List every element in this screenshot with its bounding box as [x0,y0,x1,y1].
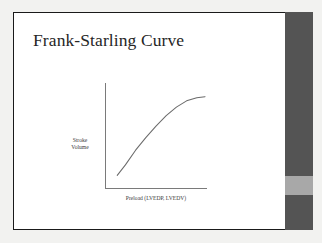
frank-starling-chart: Stroke Volume Preload (LVEDP, LVEDV) [64,75,269,215]
scrollbar-track[interactable] [285,12,313,230]
page-title: Frank-Starling Curve [33,30,184,50]
scrollbar-thumb[interactable] [285,176,313,195]
frank-starling-curve-line [117,97,205,176]
presentation-slide: Frank-Starling Curve Stroke Volume Prelo… [13,12,313,230]
curve-plot-area [64,75,269,215]
slide-viewer: Frank-Starling Curve Stroke Volume Prelo… [0,0,322,243]
